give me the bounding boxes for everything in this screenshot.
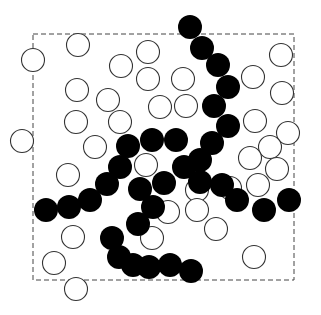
filled-particle xyxy=(252,198,276,222)
filled-particle xyxy=(202,94,226,118)
filled-particle xyxy=(277,188,301,212)
filled-particle xyxy=(206,53,230,77)
filled-particle xyxy=(188,170,212,194)
open-particle xyxy=(65,278,88,301)
open-particle xyxy=(84,136,107,159)
open-particle xyxy=(149,96,172,119)
open-particle xyxy=(186,199,209,222)
open-particle xyxy=(97,89,120,112)
open-particle xyxy=(239,147,262,170)
open-particle xyxy=(266,158,289,181)
particle-diagram xyxy=(0,0,321,315)
open-particle xyxy=(109,111,132,134)
open-particle xyxy=(110,55,133,78)
filled-particle xyxy=(34,198,58,222)
open-particle xyxy=(67,34,90,57)
open-particle xyxy=(11,130,34,153)
filled-particle xyxy=(164,128,188,152)
open-particle xyxy=(172,68,195,91)
filled-particle xyxy=(78,188,102,212)
open-particle xyxy=(244,110,267,133)
filled-particle xyxy=(179,259,203,283)
open-particle xyxy=(270,44,293,67)
open-particle xyxy=(247,174,270,197)
filled-particle xyxy=(116,134,140,158)
filled-particle xyxy=(158,253,182,277)
open-particle xyxy=(271,82,294,105)
open-particle xyxy=(57,164,80,187)
open-particle xyxy=(66,79,89,102)
filled-particle xyxy=(137,255,161,279)
open-particle xyxy=(65,111,88,134)
filled-particle xyxy=(152,171,176,195)
filled-particle xyxy=(178,15,202,39)
open-particle xyxy=(242,66,265,89)
open-particle xyxy=(135,154,158,177)
filled-particle xyxy=(126,212,150,236)
open-particle xyxy=(137,41,160,64)
filled-particle xyxy=(57,195,81,219)
filled-particle xyxy=(225,188,249,212)
open-particle xyxy=(175,95,198,118)
open-particle xyxy=(22,49,45,72)
open-particle xyxy=(137,68,160,91)
open-particle xyxy=(259,136,282,159)
filled-particle xyxy=(140,128,164,152)
open-particle xyxy=(243,246,266,269)
open-particle xyxy=(62,226,85,249)
open-particle xyxy=(205,218,228,241)
open-particle xyxy=(43,252,66,275)
